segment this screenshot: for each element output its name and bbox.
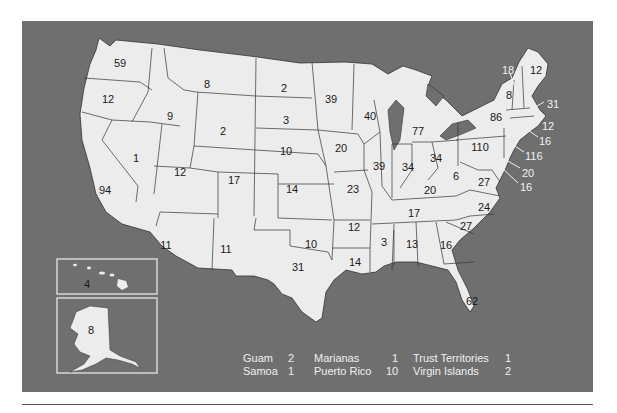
state-label-ks: 14 [286, 183, 298, 195]
state-label-tn: 17 [408, 207, 420, 219]
state-label-hi: 4 [84, 278, 90, 290]
legend-value: 1 [505, 352, 511, 365]
state-label-la: 14 [349, 256, 361, 268]
legend-item-virgin-islands: Virgin Islands 2 [413, 365, 511, 378]
legend-name: Samoa [243, 365, 288, 378]
callout-label-ct: 16 [539, 135, 551, 147]
callout-label-ri: 12 [542, 120, 554, 132]
state-label-va: 27 [478, 176, 490, 188]
state-label-wy: 2 [220, 125, 226, 137]
legend-value: 2 [505, 365, 511, 378]
legend-name: Trust Territories [413, 352, 505, 365]
territories-legend: Guam 2 Marianas 1 Trust Territories 1 Sa… [243, 352, 511, 378]
state-label-ny: 86 [490, 111, 502, 123]
legend-name: Marianas [314, 352, 392, 365]
state-label-wa: 59 [114, 57, 126, 69]
state-label-me: 12 [530, 64, 542, 76]
state-label-wv: 6 [453, 170, 459, 182]
callout-label-de: 20 [522, 167, 534, 179]
legend-value: 10 [386, 365, 398, 378]
state-label-tx: 31 [292, 261, 304, 273]
legend-row-1: Guam 2 Marianas 1 Trust Territories 1 [243, 352, 511, 365]
callout-label-ma: 31 [547, 98, 559, 110]
legend-item-puerto-rico: Puerto Rico 10 [314, 365, 409, 378]
callout-label-md: 16 [520, 181, 532, 193]
state-label-oh: 34 [430, 152, 442, 164]
state-label-nm: 11 [220, 243, 231, 255]
state-label-sc: 27 [460, 220, 472, 232]
callout-label-nh: 18 [502, 64, 514, 76]
legend-item-samoa: Samoa 1 [243, 365, 308, 378]
state-label-sd: 3 [283, 114, 289, 126]
legend-name: Puerto Rico [314, 365, 386, 378]
state-label-ak: 8 [88, 324, 94, 336]
state-label-ut: 12 [174, 166, 186, 178]
state-label-ia: 20 [335, 142, 347, 154]
state-label-wi: 40 [364, 110, 376, 122]
callout-label-nj: 116 [525, 150, 543, 162]
alaska-shape [70, 306, 140, 372]
state-label-al: 13 [406, 238, 418, 250]
hawaii-islands [73, 264, 128, 290]
state-label-ar: 12 [348, 221, 360, 233]
legend-item-marianas: Marianas 1 [314, 352, 409, 365]
state-label-il: 39 [373, 160, 385, 172]
legend-name: Virgin Islands [413, 365, 505, 378]
legend-value: 1 [392, 352, 398, 365]
state-label-ga: 16 [440, 239, 452, 251]
state-label-nd: 2 [281, 82, 287, 94]
state-label-ok: 10 [305, 238, 317, 250]
state-label-ne: 10 [280, 145, 292, 157]
state-label-nv: 1 [133, 152, 139, 164]
state-label-az: 11 [160, 239, 171, 251]
state-label-mt: 8 [204, 78, 210, 90]
state-label-ky: 20 [424, 184, 436, 196]
state-label-mn: 39 [325, 93, 337, 105]
state-label-vt: 8 [506, 89, 512, 101]
hawaii-inset-frame [57, 259, 157, 294]
state-label-mo: 23 [347, 183, 359, 195]
state-label-fl: 62 [466, 295, 478, 307]
state-label-pa: 110 [471, 141, 489, 153]
state-label-id: 9 [167, 110, 173, 122]
state-label-or: 12 [102, 93, 114, 105]
state-label-ca: 94 [99, 184, 111, 196]
legend-item-guam: Guam 2 [243, 352, 308, 365]
state-label-in: 34 [402, 161, 414, 173]
state-label-ms: 3 [381, 236, 387, 248]
legend-row-2: Samoa 1 Puerto Rico 10 Virgin Islands 2 [243, 365, 511, 378]
state-label-nc: 24 [478, 201, 490, 213]
legend-value: 1 [288, 365, 294, 378]
legend-name: Guam [243, 352, 288, 365]
legend-item-trust-territories: Trust Territories 1 [413, 352, 511, 365]
state-label-co: 17 [228, 174, 240, 186]
legend-value: 2 [288, 352, 294, 365]
state-label-mi: 77 [412, 125, 424, 137]
